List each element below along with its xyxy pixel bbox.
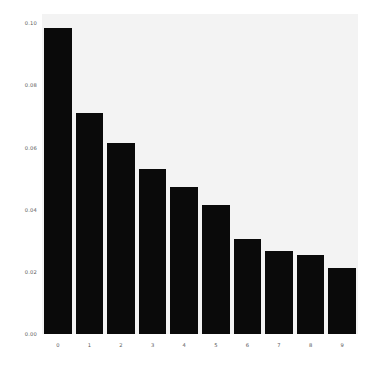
x-tick-label: 8	[309, 342, 312, 348]
x-tick-label: 5	[214, 342, 217, 348]
y-tick-label: 0.04	[25, 207, 37, 213]
bar	[297, 255, 324, 334]
bar	[107, 143, 134, 334]
bar	[234, 239, 261, 334]
x-axis: 0123456789	[42, 334, 358, 369]
x-tick-label: 0	[56, 342, 59, 348]
y-axis: 0.000.020.040.060.080.10	[0, 0, 42, 369]
bar	[139, 169, 166, 334]
plot-area	[42, 14, 358, 334]
bar	[76, 113, 103, 335]
y-tick-label: 0.06	[25, 145, 37, 151]
bar-chart-figure: 0.000.020.040.060.080.10 0123456789	[0, 0, 371, 369]
y-tick-label: 0.08	[25, 82, 37, 88]
bar	[328, 268, 355, 334]
bar	[265, 251, 292, 334]
x-tick-label: 2	[119, 342, 122, 348]
x-tick-label: 1	[88, 342, 91, 348]
x-tick-label: 9	[341, 342, 344, 348]
x-tick-label: 4	[183, 342, 186, 348]
y-tick-label: 0.00	[25, 331, 37, 337]
x-tick-label: 7	[277, 342, 280, 348]
x-tick-label: 3	[151, 342, 154, 348]
y-tick-label: 0.02	[25, 269, 37, 275]
bar	[44, 28, 71, 334]
y-tick-label: 0.10	[25, 20, 37, 26]
bar	[202, 205, 229, 334]
x-tick-label: 6	[246, 342, 249, 348]
bar	[170, 187, 197, 334]
